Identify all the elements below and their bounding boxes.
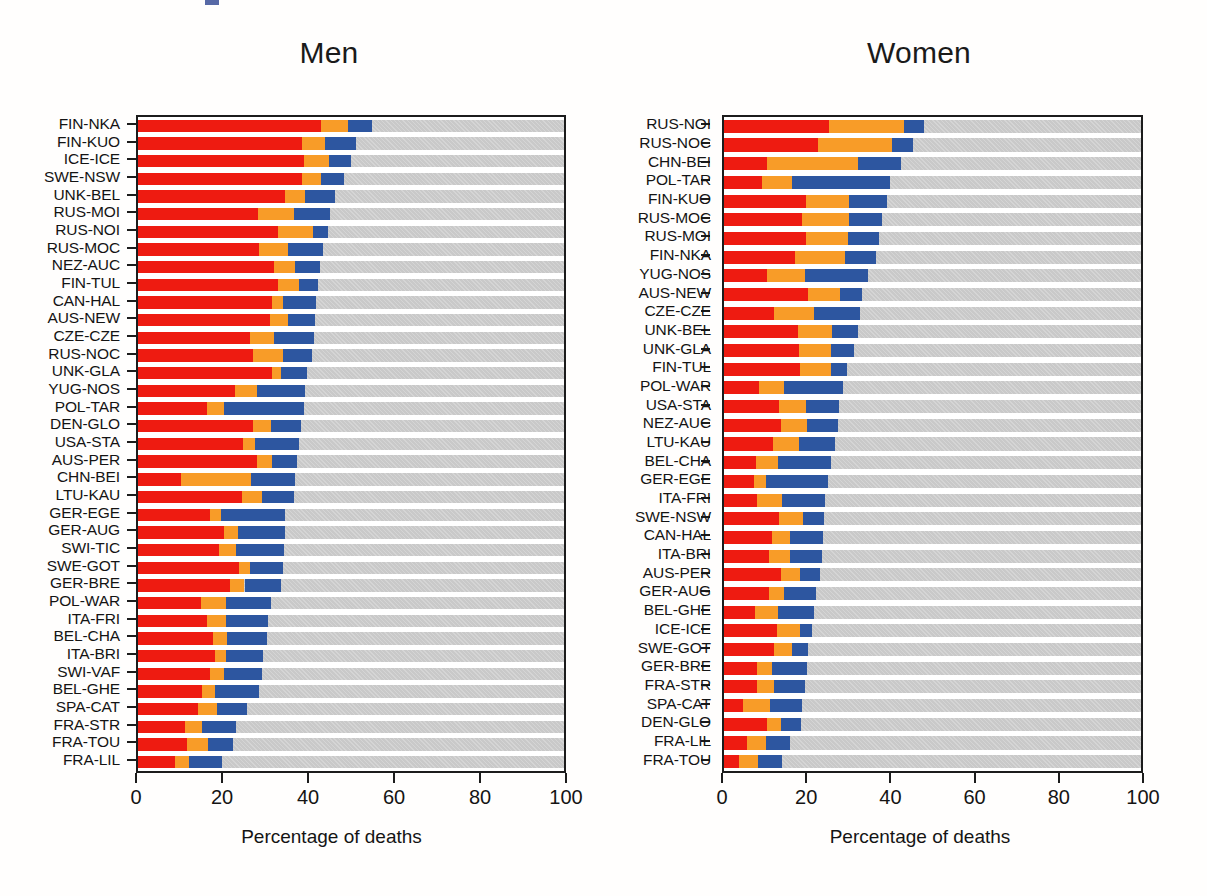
bar-segment-1 xyxy=(138,385,235,397)
bar-row xyxy=(138,208,564,220)
bar-segment-2 xyxy=(257,455,272,467)
y-axis-label: GER-BRE xyxy=(50,574,120,592)
bar-row xyxy=(138,155,564,167)
bar-segment-1 xyxy=(138,455,257,467)
bar-row xyxy=(724,456,1141,469)
bar-segment-2 xyxy=(278,279,299,291)
bar-segment-2 xyxy=(779,400,806,413)
bar-segment-3 xyxy=(271,420,300,432)
bar-segment-3 xyxy=(262,491,294,503)
y-axis-label: RUS-NOC xyxy=(48,345,120,363)
bar-segment-1 xyxy=(138,137,302,149)
bar-segment-3 xyxy=(803,512,824,525)
bar-segment-2 xyxy=(757,680,775,693)
bar-segment-1 xyxy=(724,195,806,208)
bar-row xyxy=(138,190,564,202)
bar-row xyxy=(724,755,1141,768)
bar-segment-2 xyxy=(272,296,283,308)
y-axis-label: CHN-BEI xyxy=(57,468,120,486)
bar-segment-3 xyxy=(313,226,328,238)
bar-row xyxy=(724,494,1141,507)
x-axis-tick-label: 20 xyxy=(795,786,817,809)
bar-segment-1 xyxy=(724,456,756,469)
bar-segment-2 xyxy=(201,597,226,609)
bar-segment-3 xyxy=(224,668,262,680)
bar-row xyxy=(724,475,1141,488)
bar-row xyxy=(138,721,564,733)
bar-segment-3 xyxy=(305,190,335,202)
bar-segment-3 xyxy=(283,349,312,361)
y-axis-tick xyxy=(127,706,136,708)
bar-segment-2 xyxy=(270,314,288,326)
bar-segment-1 xyxy=(138,703,198,715)
bar-row xyxy=(724,157,1141,170)
x-axis-tick xyxy=(889,773,891,783)
y-axis-tick xyxy=(127,759,136,761)
bar-segment-3 xyxy=(250,562,282,574)
figure-root: Men FIN-NKAFIN-KUOICE-ICESWE-NSWUNK-BELR… xyxy=(0,0,1207,896)
bar-segment-1 xyxy=(724,138,818,151)
y-axis-tick xyxy=(127,247,136,249)
bar-segment-3 xyxy=(792,176,890,189)
y-axis-label: ITA-BRI xyxy=(67,645,120,663)
bar-segment-2 xyxy=(802,213,850,226)
y-axis-label: AUS-NEW xyxy=(48,309,121,327)
x-axis-tick xyxy=(721,773,723,783)
bar-segment-2 xyxy=(829,120,904,133)
bar-segment-1 xyxy=(724,587,769,600)
bar-segment-1 xyxy=(138,173,302,185)
y-axis-tick xyxy=(127,317,136,319)
bar-segment-3 xyxy=(778,606,814,619)
y-axis-tick xyxy=(127,459,136,461)
bar-segment-1 xyxy=(138,155,304,167)
y-axis-tick xyxy=(127,370,136,372)
bar-segment-1 xyxy=(138,685,202,697)
bar-segment-1 xyxy=(724,606,755,619)
y-axis-tick xyxy=(127,300,136,302)
bar-row xyxy=(138,473,564,485)
bar-segment-2 xyxy=(743,699,770,712)
bar-segment-2 xyxy=(304,155,329,167)
bar-segment-2 xyxy=(224,526,238,538)
bar-segment-1 xyxy=(138,756,175,768)
y-axis-label: AUS-NEW xyxy=(639,284,712,302)
bar-row xyxy=(724,138,1141,151)
bar-segment-1 xyxy=(724,176,762,189)
bar-segment-1 xyxy=(724,662,757,675)
y-axis-label: FIN-TUL xyxy=(61,274,120,292)
bar-segment-3 xyxy=(215,685,259,697)
bar-row xyxy=(138,650,564,662)
bar-segment-2 xyxy=(769,587,784,600)
y-axis-tick xyxy=(127,158,136,160)
y-axis-label: CHN-BEI xyxy=(648,153,711,171)
x-axis-tick xyxy=(565,773,567,783)
y-axis-label: BEL-GHE xyxy=(644,601,711,619)
y-axis-tick xyxy=(127,194,136,196)
bar-segment-2 xyxy=(302,173,321,185)
bar-segment-1 xyxy=(138,526,224,538)
bar-segment-3 xyxy=(348,120,372,132)
bar-row xyxy=(724,531,1141,544)
bar-segment-1 xyxy=(724,512,779,525)
bar-segment-1 xyxy=(138,420,253,432)
x-axis-men: 020406080100 xyxy=(136,773,566,833)
y-axis-tick xyxy=(127,618,136,620)
y-axis-label: FRA-TOU xyxy=(52,733,120,751)
y-axis-label: ITA-FRI xyxy=(68,610,120,628)
bar-segment-1 xyxy=(138,296,272,308)
bar-segment-1 xyxy=(138,367,272,379)
y-axis-tick xyxy=(127,494,136,496)
bar-row xyxy=(138,314,564,326)
bar-segment-2 xyxy=(210,509,221,521)
y-axis-label: SWE-NSW xyxy=(635,508,711,526)
bar-segment-3 xyxy=(858,157,901,170)
bar-row xyxy=(724,419,1141,432)
y-axis-label: LTU-KAU xyxy=(56,486,120,504)
bar-row xyxy=(724,680,1141,693)
y-axis-label: ITA-FRI xyxy=(659,489,711,507)
x-axis-tick xyxy=(479,773,481,783)
x-axis-tick-label: 20 xyxy=(211,786,233,809)
bar-segment-2 xyxy=(759,381,784,394)
bar-row xyxy=(138,526,564,538)
y-axis-label: DEN-GLO xyxy=(50,415,120,433)
